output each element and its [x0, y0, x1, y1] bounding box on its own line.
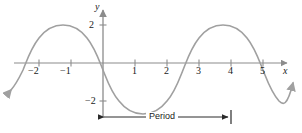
x-tick-label-5: 5	[260, 66, 265, 76]
y-tick-label--2: −2	[85, 96, 96, 106]
x-tick-label-4: 4	[228, 66, 233, 76]
sine-curve	[11, 25, 293, 114]
x-axis	[14, 60, 287, 67]
y-axis-label: y	[95, 2, 99, 12]
x-axis-label: x	[283, 66, 287, 76]
x-tick-label-3: 3	[196, 66, 201, 76]
y-tick-label-2: 2	[89, 20, 94, 30]
period-label: Period	[146, 112, 178, 121]
x-tick-label--2: −2	[28, 66, 39, 76]
sine-graph-figure: −2 −1 1 2 3 4 5 2 −2 y x Period	[0, 0, 302, 133]
x-tick-label-1: 1	[132, 66, 137, 76]
x-tick-label-2: 2	[164, 66, 169, 76]
x-tick-label--1: −1	[60, 66, 71, 76]
